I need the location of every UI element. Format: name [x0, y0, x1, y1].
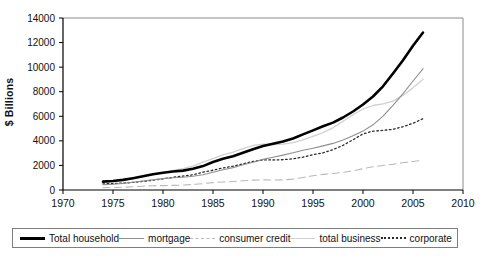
legend-item-total-household: Total household: [20, 233, 119, 244]
legend-line-sample-consumer-credit: [190, 238, 215, 239]
legend-label: consumer credit: [219, 233, 290, 244]
x-tick-label: 1985: [201, 197, 225, 209]
legend-label: Total household: [49, 233, 119, 244]
x-tick-label: 1970: [51, 197, 75, 209]
legend-item-total-business: total business: [290, 233, 380, 244]
x-tick-label: 2000: [351, 197, 375, 209]
y-tick-label: 0: [49, 185, 55, 196]
debt-line-chart-figure: 0200040006000800010000120001400019701975…: [0, 0, 492, 272]
y-tick-label: 8000: [33, 86, 56, 97]
legend-line-sample-total-business: [290, 238, 315, 239]
y-tick-label: 6000: [33, 111, 56, 122]
legend-item-corporate: corporate: [381, 233, 452, 244]
x-tick-label: 2010: [451, 197, 475, 209]
legend-item-mortgage: mortgage: [119, 233, 190, 244]
x-tick-label: 2005: [401, 197, 425, 209]
legend-label: mortgage: [148, 233, 190, 244]
legend-item-consumer-credit: consumer credit: [190, 233, 290, 244]
legend: Total household mortgage consumer credit…: [12, 228, 458, 248]
legend-label: total business: [319, 233, 380, 244]
legend-line-sample-total-household: [20, 237, 45, 240]
x-tick-label: 1990: [251, 197, 275, 209]
axis-lines: [63, 18, 463, 190]
y-tick-label: 4000: [33, 135, 56, 146]
x-tick-label: 1995: [301, 197, 325, 209]
y-tick-label: 12000: [27, 37, 55, 48]
x-tick-label: 1975: [101, 197, 125, 209]
plot-border: [63, 18, 463, 190]
y-tick-label: 14000: [27, 13, 55, 24]
x-tick-label: 1980: [151, 197, 175, 209]
legend-line-sample-corporate: [381, 237, 406, 239]
legend-label: corporate: [410, 233, 452, 244]
y-axis-title: $ Billions: [3, 52, 15, 152]
series-line-mortgage: [103, 69, 423, 185]
y-tick-label: 2000: [33, 160, 56, 171]
legend-line-sample-mortgage: [119, 238, 144, 239]
y-tick-label: 10000: [27, 62, 55, 73]
